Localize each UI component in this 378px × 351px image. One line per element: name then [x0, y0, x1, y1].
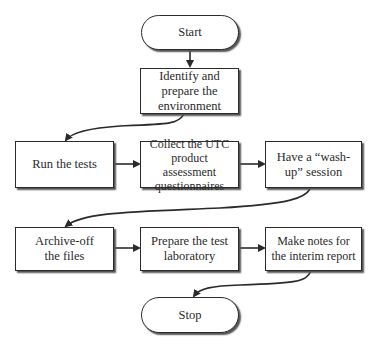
identify-label: Identify and prepare the environment — [144, 69, 235, 114]
prepare-label: Prepare the test laboratory — [144, 234, 235, 264]
notes-label: Make notes for the interim report — [269, 234, 358, 264]
archive-files-step: Archive-off the files — [15, 227, 114, 271]
edge-notes-stop — [194, 271, 311, 296]
run-tests-step: Run the tests — [15, 141, 114, 188]
collect-questionnaires-step: Collect the UTC product assessment quest… — [140, 141, 239, 188]
stop-label: Stop — [179, 308, 202, 323]
edge-washup-archive — [66, 189, 310, 226]
collect-label: Collect the UTC product assessment quest… — [144, 137, 235, 193]
stop-terminator: Stop — [141, 297, 239, 333]
archive-label: Archive-off the files — [19, 234, 110, 264]
interim-notes-step: Make notes for the interim report — [265, 227, 362, 271]
prepare-laboratory-step: Prepare the test laboratory — [140, 227, 239, 271]
run-label: Run the tests — [32, 157, 97, 172]
washup-session-step: Have a “wash-up” session — [265, 141, 362, 188]
start-terminator: Start — [141, 15, 239, 50]
washup-label: Have a “wash-up” session — [269, 150, 358, 180]
identify-environment-step: Identify and prepare the environment — [140, 68, 239, 114]
start-label: Start — [178, 25, 202, 40]
